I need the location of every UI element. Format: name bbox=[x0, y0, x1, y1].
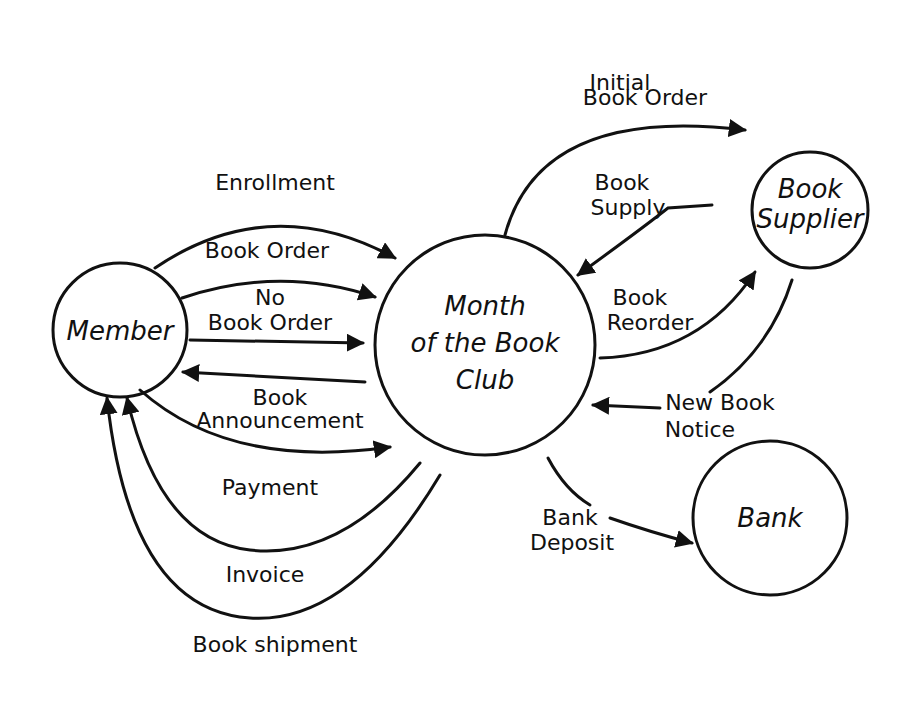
node-supplier-label-2: Supplier bbox=[756, 204, 865, 234]
flow-enrollment-label: Enrollment bbox=[215, 170, 335, 195]
node-bank: Bank bbox=[693, 441, 847, 595]
flow-book-order-label: Book Order bbox=[205, 238, 330, 263]
node-club: Month of the Book Club bbox=[375, 235, 595, 455]
flow-initial-book-order-label-2: Book Order bbox=[583, 85, 708, 110]
flow-book-shipment-label: Book shipment bbox=[193, 632, 358, 657]
flow-book-reorder-label-1: Book bbox=[613, 285, 668, 310]
node-member-label: Member bbox=[67, 316, 176, 346]
flow-new-book-notice-label-1: New Book bbox=[665, 390, 775, 415]
flow-book-supply-label-1: Book bbox=[595, 170, 650, 195]
flow-payment-label: Payment bbox=[222, 475, 319, 500]
flow-no-book-order-label-1: No bbox=[255, 285, 285, 310]
node-supplier: Book Supplier bbox=[752, 152, 868, 268]
node-member: Member bbox=[53, 263, 187, 397]
flow-bank-deposit-label-2: Deposit bbox=[530, 530, 614, 555]
flow-book-supply-label-2: Supply bbox=[591, 195, 666, 220]
node-club-label-3: Club bbox=[456, 365, 514, 395]
node-supplier-label-1: Book bbox=[778, 174, 844, 204]
flow-book-shipment: Book shipment bbox=[107, 398, 440, 657]
flow-no-book-order: No Book Order bbox=[190, 285, 363, 343]
flow-book-announcement-label-1: Book bbox=[253, 385, 308, 410]
data-flow-diagram: Member Month of the Book Club Book Suppl… bbox=[0, 0, 908, 702]
flow-no-book-order-label-2: Book Order bbox=[208, 310, 333, 335]
flow-invoice-label: Invoice bbox=[226, 562, 305, 587]
flow-book-announcement: Book Announcement bbox=[183, 372, 365, 433]
flow-new-book-notice-label-2: Notice bbox=[665, 417, 735, 442]
node-club-label-1: Month bbox=[444, 291, 526, 321]
flow-book-reorder-label-2: Reorder bbox=[607, 310, 694, 335]
flow-bank-deposit-label-1: Bank bbox=[542, 505, 598, 530]
flow-book-reorder: Book Reorder bbox=[600, 272, 755, 358]
node-bank-label: Bank bbox=[737, 503, 803, 533]
node-club-label-2: of the Book bbox=[411, 328, 561, 358]
flow-book-announcement-label-2: Announcement bbox=[196, 408, 364, 433]
flow-book-supply: Book Supply bbox=[578, 170, 712, 275]
flow-bank-deposit: Bank Deposit bbox=[530, 458, 692, 555]
